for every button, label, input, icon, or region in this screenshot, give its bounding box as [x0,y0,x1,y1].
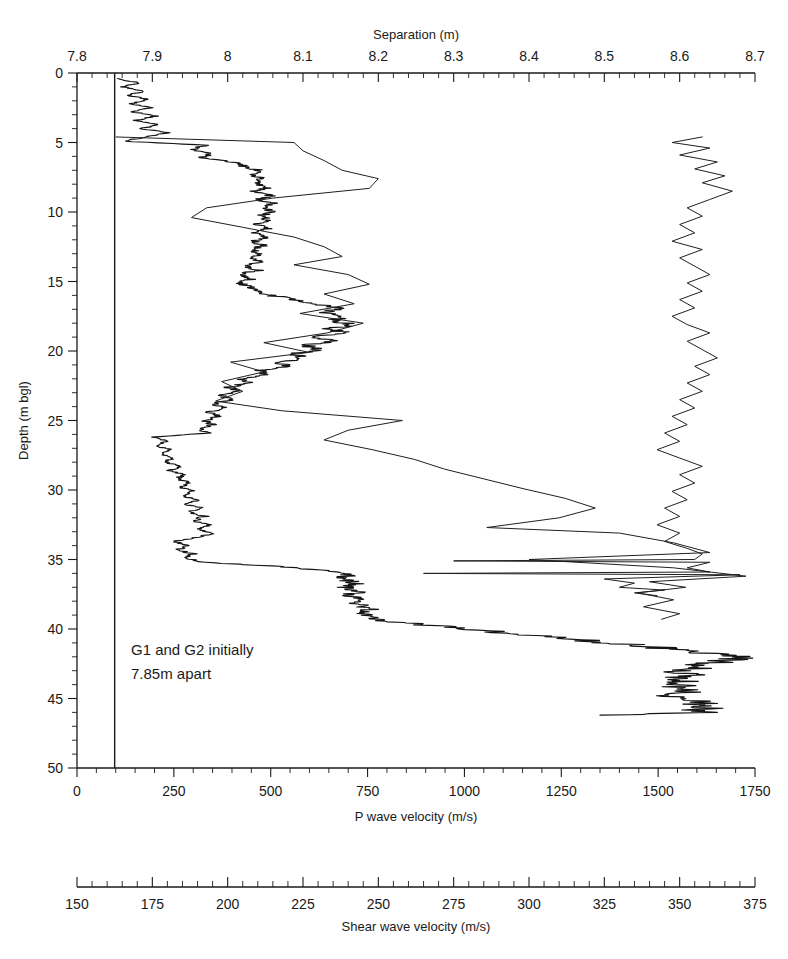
tick-label: 8.5 [595,48,615,64]
shear-tick-label: 375 [743,896,767,912]
depth-tick-label: 10 [47,204,63,220]
shear-tick-label: 175 [141,896,165,912]
main-plot-frame [77,73,755,768]
shear-tick-label: 150 [65,896,89,912]
annotation-line-2: 7.85m apart [131,665,212,682]
tick-label: 8.4 [519,48,539,64]
tick-label: 500 [259,783,283,799]
series-p-wave-velocity [118,79,753,716]
shear-tick-label: 225 [291,896,315,912]
bottom-axis-pwave: 02505007501000125015001750 [73,768,771,799]
shear-tick-label: 300 [517,896,541,912]
tick-label: 750 [356,783,380,799]
depth-tick-label: 15 [47,274,63,290]
tick-label: 8.7 [745,48,765,64]
series-layer [116,79,753,716]
shear-tick-label: 350 [668,896,692,912]
shear-wave-axis: 150175200225250275300325350375 [65,877,767,912]
depth-tick-label: 45 [47,691,63,707]
series-separation [424,137,740,596]
tick-label: 1000 [449,783,480,799]
annotation-line-1: G1 and G2 initially [131,641,254,658]
tick-label: 8.3 [444,48,464,64]
depth-profile-chart: 7.87.988.18.28.38.48.58.68.7 Separation … [0,0,788,959]
series-shear-wave-velocity [116,137,746,619]
tick-label: 8 [224,48,232,64]
top-axis-title: Separation (m) [373,27,459,42]
depth-tick-label: 5 [55,135,63,151]
tick-label: 0 [73,783,81,799]
tick-label: 1250 [546,783,577,799]
tick-label: 8.1 [293,48,313,64]
pwave-axis-title: P wave velocity (m/s) [355,809,478,824]
figure-container: 7.87.988.18.28.38.48.58.68.7 Separation … [0,0,788,959]
depth-tick-label: 25 [47,413,63,429]
tick-label: 8.6 [670,48,690,64]
depth-tick-label: 35 [47,552,63,568]
tick-label: 7.8 [67,48,87,64]
tick-label: 7.9 [143,48,163,64]
depth-tick-label: 20 [47,343,63,359]
top-axis-separation: 7.87.988.18.28.38.48.58.68.7 [67,48,765,82]
shear-tick-label: 250 [367,896,391,912]
depth-tick-label: 50 [47,760,63,776]
shear-tick-label: 325 [593,896,617,912]
depth-tick-label: 30 [47,482,63,498]
depth-tick-label: 40 [47,621,63,637]
shear-axis-title: Shear wave velocity (m/s) [342,919,491,934]
tick-label: 8.2 [369,48,389,64]
tick-label: 1500 [643,783,674,799]
shear-tick-label: 275 [442,896,466,912]
shear-tick-label: 200 [216,896,240,912]
left-axis-depth: 05101520253035404550 [47,65,77,776]
tick-label: 1750 [739,783,770,799]
tick-label: 250 [162,783,186,799]
depth-axis-title: Depth (m bgl) [16,381,31,460]
depth-tick-label: 0 [55,65,63,81]
